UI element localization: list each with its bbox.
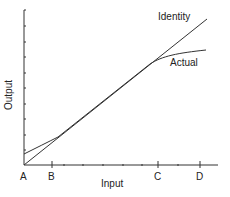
- identity-label: Identity: [158, 12, 190, 22]
- x-tick-a: A: [20, 172, 27, 182]
- x-tick-b: B: [48, 172, 55, 182]
- x-axis-label: Input: [101, 179, 123, 189]
- actual-label: Actual: [170, 58, 198, 68]
- y-axis-label: Output: [3, 80, 14, 110]
- x-tick-d: D: [196, 172, 203, 182]
- x-tick-c: C: [154, 172, 161, 182]
- chart-canvas: [0, 0, 230, 197]
